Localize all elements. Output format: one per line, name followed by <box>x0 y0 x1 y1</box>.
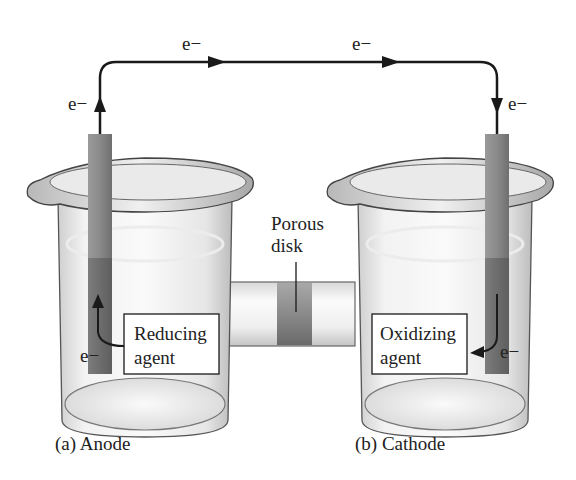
arrow-down-icon <box>491 98 503 114</box>
svg-text:disk: disk <box>271 235 303 256</box>
svg-text:agent: agent <box>134 347 176 368</box>
porous-disk <box>277 283 312 345</box>
external-wire <box>94 56 503 134</box>
caption-anode: (a) Anode <box>55 433 130 455</box>
oxidizing-agent-box: Oxidizing agent <box>372 314 467 374</box>
arrow-right-icon <box>208 56 226 68</box>
salt-bridge-tube <box>225 282 355 346</box>
electron-label: e− <box>80 345 99 366</box>
caption-cathode: (b) Cathode <box>355 433 445 455</box>
anode-beaker <box>27 158 253 437</box>
svg-text:Reducing: Reducing <box>134 323 207 344</box>
reducing-agent-box: Reducing agent <box>124 314 219 374</box>
electron-label: e− <box>508 93 527 114</box>
electron-label: e− <box>182 33 201 54</box>
svg-text:Porous: Porous <box>271 213 324 234</box>
svg-text:agent: agent <box>380 347 422 368</box>
electrochemical-cell-diagram: Porous disk e− e− e− e− Reducing agent e… <box>0 0 576 480</box>
electron-label: e− <box>68 93 87 114</box>
svg-text:Oxidizing: Oxidizing <box>380 323 456 344</box>
electron-label: e− <box>500 341 519 362</box>
arrow-right-icon <box>382 56 400 68</box>
cathode-beaker <box>327 158 553 437</box>
arrow-up-icon <box>94 96 106 112</box>
electron-label: e− <box>352 33 371 54</box>
